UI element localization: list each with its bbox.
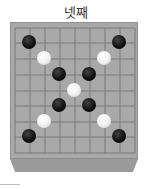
game-board [10,22,138,172]
black-stone [112,129,126,143]
divider [0,184,20,185]
black-stone [22,129,36,143]
black-stone [22,35,36,49]
black-stone [82,67,96,81]
black-stone [82,98,96,112]
black-stone [112,35,126,49]
board-front-face [10,159,138,172]
white-stone [97,51,111,65]
page-title: 넷째 [0,2,152,21]
white-stone [67,83,81,97]
black-stone [52,98,66,112]
white-stone [37,114,51,128]
white-stone [37,51,51,65]
black-stone [52,67,66,81]
white-stone [97,114,111,128]
